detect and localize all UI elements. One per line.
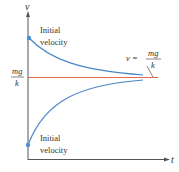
- terminal-left-numerator: mg: [12, 66, 22, 76]
- x-axis-arrow-icon: [164, 158, 170, 162]
- terminal-eq-numerator: mg: [148, 48, 158, 58]
- bottom-initial-point: [26, 143, 30, 147]
- bottom-initial-label-line2: velocity: [40, 145, 68, 155]
- x-axis-label: t: [171, 154, 174, 165]
- velocity-diagram: v t Initial velocity Initial velocity mg…: [0, 0, 179, 172]
- y-axis-label: v: [25, 1, 30, 12]
- terminal-left-denominator: k: [15, 78, 19, 88]
- top-initial-label-line2: velocity: [40, 37, 68, 47]
- top-initial-label-line1: Initial: [40, 25, 61, 35]
- terminal-eq-denominator: k: [151, 60, 155, 70]
- top-initial-point: [27, 36, 31, 40]
- bottom-initial-label-line1: Initial: [40, 133, 61, 143]
- terminal-eq-lhs: v =: [126, 53, 138, 63]
